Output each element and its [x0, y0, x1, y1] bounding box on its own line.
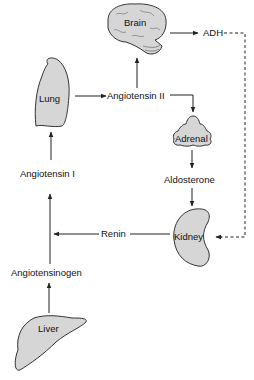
- angiotensin-ii-label: Angiotensin II: [107, 90, 165, 101]
- lung-label: Lung: [39, 93, 60, 104]
- aldosterone-label: Aldosterone: [164, 174, 215, 185]
- liver-organ: Liver: [15, 316, 86, 371]
- liver-label: Liver: [38, 323, 59, 334]
- angiotensin-i-label: Angiotensin I: [20, 168, 75, 179]
- kidney-label: Kidney: [174, 231, 203, 242]
- lung-organ: Lung: [35, 58, 69, 127]
- angiotensinogen-label: Angiotensinogen: [11, 267, 82, 278]
- angiotensin-ii-to-adrenal-arrow: [170, 95, 193, 112]
- kidney-organ: Kidney: [174, 209, 210, 266]
- adh-label: ADH: [203, 27, 223, 38]
- adrenal-organ: Adrenal: [173, 116, 211, 146]
- brain-organ: Brain: [108, 4, 166, 54]
- adrenal-label: Adrenal: [175, 133, 208, 144]
- adh-to-kidney-dashed-line: [218, 33, 245, 237]
- diagram-canvas: Brain ADH Lung Angiotensin II Adrenal Al…: [0, 0, 254, 380]
- brain-label: Brain: [124, 17, 146, 28]
- renin-label: Renin: [101, 228, 126, 239]
